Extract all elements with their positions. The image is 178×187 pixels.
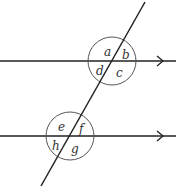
transversal [41,2,145,186]
angle-label-a: a [104,45,111,59]
angle-label-e: e [58,120,65,134]
transversal-line [41,2,145,186]
angle-label-g: g [71,142,79,156]
angle-label-f: f [78,122,86,136]
parallel-lines [0,56,176,141]
angle-label-b: b [122,48,130,62]
angle-label-h: h [52,139,60,153]
parallel-lines-diagram: abcdefgh [0,0,178,187]
angle-label-d: d [96,64,104,78]
angle-label-c: c [116,66,123,80]
diagram-canvas: abcdefgh [0,0,178,187]
